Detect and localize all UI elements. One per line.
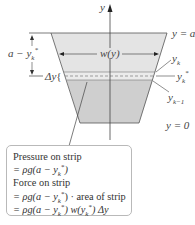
callout-line-2: = ρg(a − yk*)	[13, 163, 131, 176]
depth-arrow-up-icon	[30, 35, 34, 40]
callout-line-4: = ρg(a − yk*) · area of strip	[13, 190, 131, 203]
width-label: w(y)	[99, 48, 121, 59]
depth-label: a − yk*	[8, 48, 38, 59]
depth-arrow-down-icon	[30, 70, 34, 75]
y-axis-label: y	[100, 2, 105, 13]
y-axis-arrow-icon	[108, 4, 113, 12]
bottom-level-label: y = 0	[166, 120, 189, 131]
callout-box: Pressure on strip = ρg(a − yk*) Force on…	[6, 145, 132, 216]
strip-height-label: Δy{	[45, 71, 62, 82]
callout-line-1: Pressure on strip	[13, 150, 131, 163]
top-level-label: y = a	[172, 28, 195, 39]
yk-label: yk	[172, 53, 180, 64]
yk-minus-1-label: yk−1	[168, 92, 184, 103]
callout-line-3: Force on strip	[13, 176, 131, 189]
yk-star-label: yk*	[177, 71, 189, 82]
yk-minus-1-leader	[153, 81, 169, 92]
callout-line-5: = ρg(a − yk*) w(yk*) Δy	[13, 203, 131, 216]
